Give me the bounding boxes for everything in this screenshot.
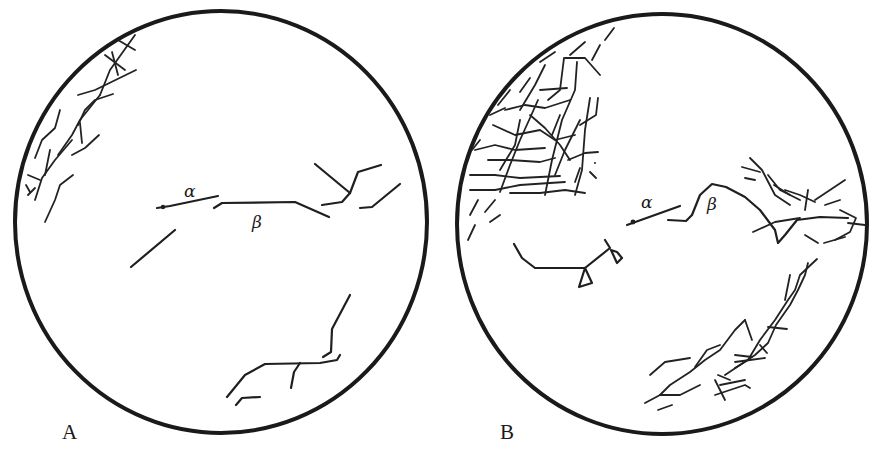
fiber-bent-with-knots-b	[514, 240, 622, 287]
fiber-alpha-a: α	[157, 181, 218, 209]
fiber-mesh-upper-left-b	[468, 28, 614, 240]
alpha-label-a: α	[184, 181, 196, 201]
fiber-cluster-right-a	[315, 164, 400, 208]
beta-label-a: β	[251, 212, 262, 232]
panel-a: α β A	[15, 11, 427, 444]
panel-label-b: B	[500, 420, 514, 444]
panel-b: α β	[457, 14, 867, 444]
fiber-cluster-right-b	[742, 158, 865, 243]
field-of-view-circle-b	[457, 14, 867, 434]
figure-canvas: α β A	[0, 0, 879, 453]
panel-label-a: A	[62, 420, 78, 444]
fiber-cluster-upper-left-a	[26, 35, 136, 222]
beta-label-b: β	[706, 194, 717, 214]
fiber-beta-a: β	[214, 202, 329, 232]
field-of-view-circle-a	[15, 11, 427, 433]
fiber-segment-a	[131, 230, 175, 267]
alpha-label-b: α	[641, 192, 653, 212]
fiber-beta-b: β	[668, 184, 848, 243]
fiber-cluster-lower-right-a	[227, 295, 350, 405]
